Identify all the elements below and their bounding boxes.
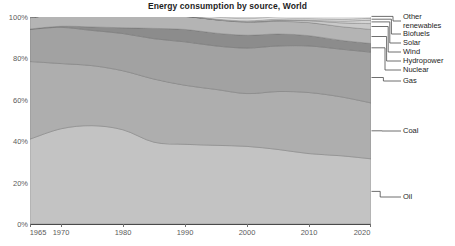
x-axis-tick-label: 2020 (354, 228, 371, 237)
x-axis-tick-mark (247, 224, 248, 227)
page-title: Energy consumption by source, World (0, 1, 455, 11)
x-axis-tick-label: 1990 (177, 228, 194, 237)
x-axis-tick-label: 2000 (239, 228, 256, 237)
y-axis-tick-label: 40% (2, 137, 28, 146)
x-axis-tick-label: 1980 (115, 228, 132, 237)
x-axis-tick-label: 1970 (53, 228, 70, 237)
x-axis-tick-mark (123, 224, 124, 227)
y-axis-tick-label: 100% (2, 13, 28, 22)
legend: Other renewablesBiofuelsSolarWindHydropo… (371, 13, 455, 228)
legend-item-nuclear[interactable]: Nuclear (403, 66, 429, 75)
x-axis-tick-label: 1965 (30, 228, 47, 237)
x-axis-tick-mark (185, 224, 186, 227)
y-axis: 0%20%40%60%80%100% (0, 17, 28, 224)
legend-item-other-renewables[interactable]: Other renewables (403, 13, 449, 30)
y-axis-tick-label: 60% (2, 96, 28, 105)
legend-item-gas[interactable]: Gas (403, 77, 417, 86)
legend-leader-gas (372, 78, 402, 82)
x-axis-tick-mark (30, 224, 31, 227)
legend-leader-hydropower (372, 37, 402, 62)
stacked-area-series (30, 17, 371, 224)
y-axis-tick-label: 80% (2, 54, 28, 63)
plot-area (30, 17, 371, 224)
chart-root: Energy consumption by source, World 0%20… (0, 0, 455, 246)
legend-item-oil[interactable]: Oil (403, 193, 412, 202)
y-axis-tick-label: 20% (2, 179, 28, 188)
x-axis-tick-mark (61, 224, 62, 227)
y-axis-tick-label: 0% (2, 220, 28, 229)
legend-leader-oil (372, 191, 402, 197)
x-axis-tick-label: 2010 (301, 228, 318, 237)
legend-item-coal[interactable]: Coal (403, 127, 418, 136)
legend-leader-other-renewables (372, 16, 402, 21)
x-axis-line (30, 224, 371, 225)
x-axis-tick-mark (309, 224, 310, 227)
